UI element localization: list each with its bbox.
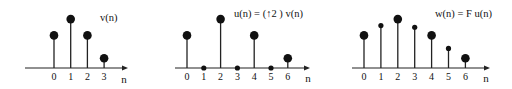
stem-panel-3: 0123456w(n) = F u(n)n bbox=[352, 8, 492, 84]
x-tick-label: 3 bbox=[102, 71, 107, 82]
stem-marker bbox=[427, 31, 436, 40]
x-tick-label: 3 bbox=[412, 71, 417, 82]
stem-marker bbox=[250, 31, 259, 40]
stem-plot-figure: 0123v(n)n0123456u(n) = (↑2 ) v(n)n012345… bbox=[0, 0, 512, 89]
stem-marker bbox=[100, 54, 109, 63]
x-tick-label: 2 bbox=[395, 71, 400, 82]
x-tick-label: 4 bbox=[429, 71, 434, 82]
stem-marker bbox=[446, 46, 451, 51]
x-tick-label: 2 bbox=[85, 71, 90, 82]
stem-panel-1: 0123v(n)n bbox=[25, 12, 128, 85]
x-tick-label: 4 bbox=[252, 71, 257, 82]
panel-title: w(n) = F u(n) bbox=[435, 8, 492, 20]
panel-title: u(n) = (↑2 ) v(n) bbox=[234, 8, 303, 20]
x-tick-label: 1 bbox=[201, 71, 206, 82]
x-tick-label: 6 bbox=[285, 71, 290, 82]
x-tick-label: 1 bbox=[68, 71, 73, 82]
stem-marker bbox=[378, 23, 383, 28]
stem-marker bbox=[268, 65, 273, 70]
stem-marker bbox=[183, 31, 192, 40]
x-tick-label: 1 bbox=[378, 71, 383, 82]
x-axis-label: n bbox=[121, 73, 127, 85]
axis-arrow-icon bbox=[484, 66, 490, 71]
x-tick-label: 5 bbox=[269, 71, 274, 82]
x-tick-label: 0 bbox=[52, 71, 57, 82]
panel-title: v(n) bbox=[100, 12, 118, 24]
x-tick-label: 3 bbox=[235, 71, 240, 82]
x-axis-label: n bbox=[305, 72, 311, 84]
stem-marker bbox=[66, 15, 75, 24]
stem-marker bbox=[50, 31, 59, 40]
stem-marker bbox=[216, 15, 225, 24]
stem-marker bbox=[360, 31, 369, 40]
stem-panel-2: 0123456u(n) = (↑2 ) v(n)n bbox=[175, 8, 311, 84]
stem-marker bbox=[284, 54, 293, 63]
stem-marker bbox=[461, 54, 470, 63]
axis-arrow-icon bbox=[122, 66, 128, 71]
stem-marker bbox=[394, 15, 403, 24]
stem-marker bbox=[83, 31, 92, 40]
x-tick-label: 6 bbox=[463, 71, 468, 82]
x-axis-label: n bbox=[483, 72, 489, 84]
stem-marker bbox=[412, 25, 417, 30]
x-tick-label: 0 bbox=[362, 71, 367, 82]
x-tick-label: 2 bbox=[218, 71, 223, 82]
stem-marker bbox=[201, 65, 206, 70]
x-tick-label: 0 bbox=[185, 71, 190, 82]
stem-marker bbox=[235, 65, 240, 70]
x-tick-label: 5 bbox=[446, 71, 451, 82]
axis-arrow-icon bbox=[304, 66, 310, 71]
